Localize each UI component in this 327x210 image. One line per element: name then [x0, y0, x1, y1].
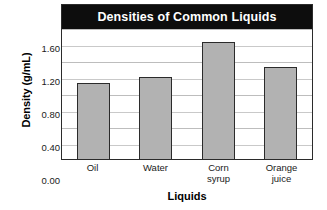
chart-title: Densities of Common Liquids — [97, 10, 276, 24]
y-axis-title: Density (g/mL) — [14, 30, 36, 150]
chart-figure: Density (g/mL) 0.000.400.801.201.60 Dens… — [0, 0, 327, 210]
x-axis-tick-label-line: Corn — [193, 162, 245, 173]
bar — [264, 67, 297, 159]
x-axis-tick-label-line: Oil — [67, 162, 119, 173]
y-axis-tick-label: 1.60 — [34, 43, 60, 54]
plot-frame: Densities of Common Liquids — [61, 4, 313, 160]
x-axis-tick-label: Water — [130, 162, 182, 173]
x-axis-tick-label: Cornsyrup — [193, 162, 245, 184]
y-axis-tick-label: 0.00 — [34, 175, 60, 186]
x-axis-tick-label: Orangejuice — [256, 162, 308, 184]
x-axis-tick-labels: OilWaterCornsyrupOrangejuice — [61, 162, 313, 188]
plot-area — [62, 29, 312, 159]
y-axis-tick-label: 1.20 — [34, 76, 60, 87]
y-axis-tick-labels: 0.000.400.801.201.60 — [34, 24, 60, 160]
x-axis-title-label: Liquids — [167, 190, 206, 202]
x-axis-tick-label-line: Orange — [256, 162, 308, 173]
x-axis-tick-label-line: syrup — [193, 173, 245, 184]
y-axis-title-label: Density (g/mL) — [19, 53, 31, 128]
bars-container — [62, 29, 312, 159]
bar — [77, 83, 110, 159]
x-axis-tick-label-line: juice — [256, 173, 308, 184]
x-axis-tick-label: Oil — [67, 162, 119, 173]
chart-title-banner: Densities of Common Liquids — [62, 5, 312, 29]
y-axis-tick-label: 0.80 — [34, 109, 60, 120]
x-axis-title: Liquids — [61, 190, 313, 202]
x-axis-tick-label-line: Water — [130, 162, 182, 173]
y-axis-tick-label: 0.40 — [34, 142, 60, 153]
bar — [202, 42, 235, 159]
bar — [139, 77, 172, 160]
